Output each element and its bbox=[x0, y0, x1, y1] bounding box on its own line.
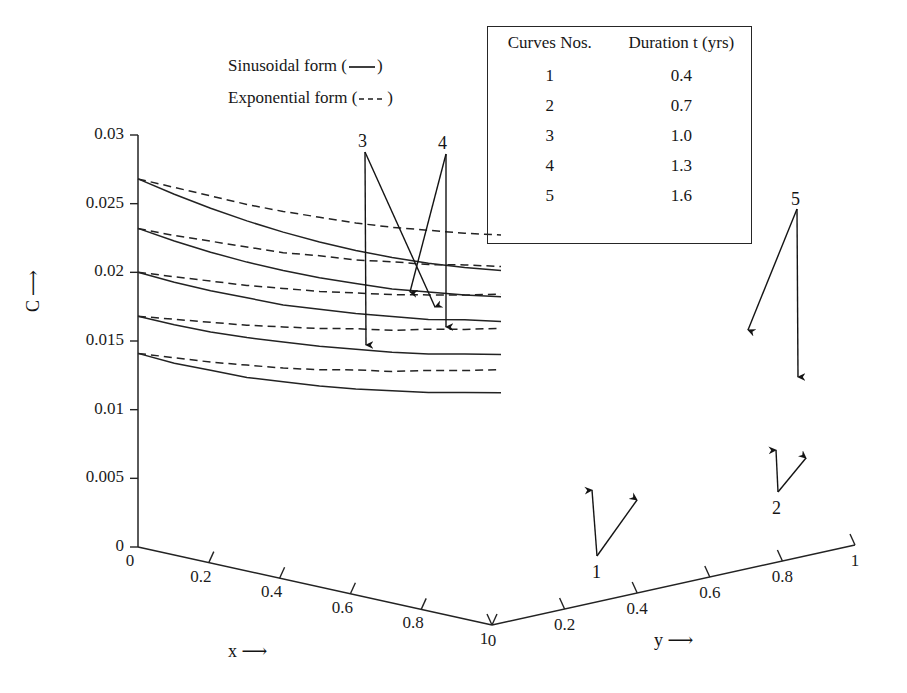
legend-exponential-label: Exponential form ( bbox=[228, 88, 357, 107]
y-axis-tick bbox=[632, 582, 637, 593]
c-axis-tick-label: 0.03 bbox=[0, 124, 124, 144]
y-axis-tick bbox=[777, 550, 782, 561]
legend-sinusoidal: Sinusoidal form () bbox=[228, 56, 383, 76]
y-axis-label-text: y bbox=[654, 630, 663, 650]
y-axis-tick bbox=[850, 534, 855, 545]
x-axis-label: x ⟶ bbox=[228, 640, 267, 662]
table-header-duration: Duration t (yrs) bbox=[612, 27, 751, 61]
c-axis-tick-label: 0 bbox=[0, 536, 124, 556]
annotation-number-1: 1 bbox=[592, 562, 601, 583]
legend-dashed-line-icon bbox=[357, 94, 387, 104]
annotation-arrow-5a bbox=[748, 209, 797, 330]
table-cell-duration: 0.7 bbox=[612, 91, 751, 121]
x-axis-tick-label: 0 bbox=[108, 551, 152, 571]
table-cell-curve-no: 5 bbox=[488, 181, 612, 211]
table-row: 51.6 bbox=[488, 181, 751, 211]
figure-canvas: Sinusoidal form () Exponential form () C… bbox=[0, 0, 907, 693]
table-row: 41.3 bbox=[488, 151, 751, 181]
y-axis-tick-label: 0.6 bbox=[688, 583, 732, 603]
y-axis-tick-label: 0.8 bbox=[760, 567, 804, 587]
annotation-number-5: 5 bbox=[791, 189, 800, 210]
table-cell-curve-no: 1 bbox=[488, 61, 612, 91]
c-axis-label-text: C bbox=[23, 300, 43, 312]
c-axis-tick-label: 0.02 bbox=[0, 261, 124, 281]
table-cell-duration: 1.0 bbox=[612, 121, 751, 151]
x-axis-arrow-icon: ⟶ bbox=[242, 641, 268, 661]
table-cell-curve-no: 3 bbox=[488, 121, 612, 151]
legend-exponential: Exponential form () bbox=[228, 88, 393, 108]
table-cell-duration: 1.6 bbox=[612, 181, 751, 211]
annotation-arrow-2b bbox=[778, 458, 806, 492]
y-axis-tick-label: 0.4 bbox=[615, 599, 659, 619]
y-axis-tick bbox=[560, 598, 565, 609]
annotation-number-3: 3 bbox=[358, 131, 367, 152]
c-axis-ticks bbox=[130, 135, 138, 547]
annotation-arrow-1b bbox=[597, 500, 637, 556]
x-axis-tick bbox=[209, 552, 214, 563]
legend-solid-line-icon bbox=[347, 62, 377, 72]
y-axis-tick-label: 0 bbox=[470, 631, 514, 651]
x-axis-label-text: x bbox=[228, 641, 237, 661]
annotation-arrow-3b bbox=[365, 152, 366, 345]
legend-exponential-paren-close: ) bbox=[387, 88, 393, 107]
curve-duration-table: Curves Nos. Duration t (yrs) 10.420.731.… bbox=[487, 26, 752, 244]
annotation-number-2: 2 bbox=[772, 498, 781, 519]
table-header-row: Curves Nos. Duration t (yrs) bbox=[488, 27, 751, 61]
table-cell-duration: 1.3 bbox=[612, 151, 751, 181]
y-axis-tick bbox=[705, 566, 710, 577]
annotation-arrow-2a bbox=[776, 450, 778, 492]
c-axis-tick-label: 0.015 bbox=[0, 330, 124, 350]
curve-duration-table-grid: Curves Nos. Duration t (yrs) 10.420.731.… bbox=[488, 27, 751, 211]
annotation-number-4: 4 bbox=[438, 133, 447, 154]
y-axis-label: y ⟶ bbox=[654, 629, 693, 651]
legend-sinusoidal-label: Sinusoidal form ( bbox=[228, 56, 347, 75]
annotation-arrow-5b bbox=[797, 209, 798, 377]
y-axis-tick-label: 0.2 bbox=[543, 615, 587, 635]
annotation-arrow-1a bbox=[592, 490, 597, 556]
table-cell-duration: 0.4 bbox=[612, 61, 751, 91]
table-header-curves: Curves Nos. bbox=[488, 27, 612, 61]
table-row: 20.7 bbox=[488, 91, 751, 121]
c-axis-tick-label: 0.01 bbox=[0, 399, 124, 419]
plot-svg bbox=[0, 0, 907, 693]
table-cell-curve-no: 4 bbox=[488, 151, 612, 181]
y-axis-arrow-icon: ⟶ bbox=[668, 630, 694, 650]
x-axis-tick bbox=[280, 567, 285, 578]
x-axis-tick-label: 0.2 bbox=[179, 567, 223, 587]
annotation-arrow-4b bbox=[410, 154, 446, 292]
y-axis-tick-label: 1 bbox=[833, 551, 877, 571]
x-axis-tick-label: 0.4 bbox=[250, 582, 294, 602]
x-axis-tick-label: 0.6 bbox=[320, 598, 364, 618]
table-row: 31.0 bbox=[488, 121, 751, 151]
c-axis-tick-label: 0.005 bbox=[0, 467, 124, 487]
x-axis-tick bbox=[350, 583, 355, 594]
data-curve bbox=[138, 353, 501, 371]
c-axis-tick-label: 0.025 bbox=[0, 193, 124, 213]
x-axis-tick bbox=[421, 598, 426, 609]
table-cell-curve-no: 2 bbox=[488, 91, 612, 121]
legend-sinusoidal-paren-close: ) bbox=[377, 56, 383, 75]
table-row: 10.4 bbox=[488, 61, 751, 91]
x-axis-tick-label: 0.8 bbox=[391, 613, 435, 633]
